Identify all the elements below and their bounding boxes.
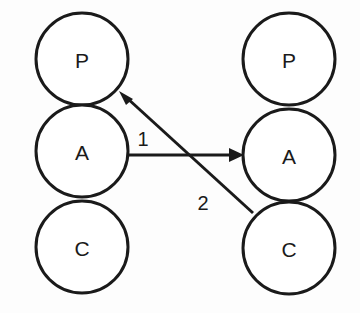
node-right-p-label: P <box>282 49 296 72</box>
node-left-c-label: C <box>74 237 89 260</box>
node-right-p[interactable]: P <box>243 13 335 105</box>
left-column: P A C <box>36 13 128 293</box>
right-column: P A C <box>243 13 335 294</box>
diagram-svg: P A C P A C <box>0 0 360 313</box>
edge-2-label: 2 <box>197 192 208 214</box>
node-left-c[interactable]: C <box>36 201 128 293</box>
node-left-a-label: A <box>75 141 89 164</box>
node-left-p-label: P <box>75 49 89 72</box>
node-left-a[interactable]: A <box>36 105 128 197</box>
edge-1-label: 1 <box>137 128 148 150</box>
node-left-p[interactable]: P <box>36 13 128 105</box>
edge-1-arrowhead-icon <box>229 148 244 162</box>
node-right-c-label: C <box>281 238 296 261</box>
edge-1-group[interactable]: 1 <box>128 128 244 162</box>
node-right-a-label: A <box>282 145 296 168</box>
diagram-canvas: P A C P A C <box>0 0 360 313</box>
node-right-a[interactable]: A <box>243 109 335 201</box>
node-right-c[interactable]: C <box>243 202 335 294</box>
